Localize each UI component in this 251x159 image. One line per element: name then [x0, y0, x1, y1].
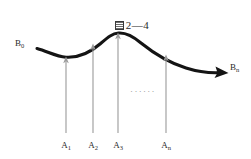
input-label-an: An	[161, 140, 171, 151]
input-label-a2-subscript: 2	[95, 144, 98, 151]
input-label-a3: A3	[113, 140, 123, 151]
input-arrow-a2	[90, 44, 96, 134]
input-arrow-a1	[63, 57, 69, 134]
curve-start-label-subscript: 0	[21, 42, 24, 49]
curve-end-label-bn: Bn	[230, 62, 239, 73]
input-arrow-an	[163, 55, 169, 134]
input-label-an-subscript: n	[168, 144, 171, 151]
curve-end-label-subscript: n	[236, 66, 239, 73]
input-label-a1-subscript: 1	[68, 144, 71, 151]
input-arrow-a3	[115, 33, 121, 134]
input-label-a2: A2	[88, 140, 98, 151]
ellipsis-label: ······	[130, 86, 156, 96]
input-arrows-graphic	[0, 0, 251, 159]
figure-container: 2—4 B0 Bn A1 A2 A3 An ······	[0, 0, 251, 159]
input-label-a1: A1	[61, 140, 71, 151]
input-label-a3-subscript: 3	[120, 144, 123, 151]
curve-start-label-b0: B0	[15, 38, 24, 49]
